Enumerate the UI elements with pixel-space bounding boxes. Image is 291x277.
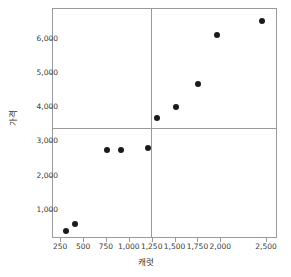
- x-axis-tick-mark: [152, 238, 153, 242]
- x-axis-tick-mark: [220, 238, 221, 242]
- x-axis-tick-label: 1,000: [118, 242, 139, 251]
- y-axis-tick-mark: [47, 141, 52, 142]
- x-axis-tick-label: 1,250: [141, 242, 162, 251]
- x-axis-tick-mark: [197, 238, 198, 242]
- x-axis-tick-label: 2,000: [210, 242, 231, 251]
- y-axis-tick-mark: [47, 176, 52, 177]
- y-axis-tick-mark: [47, 210, 52, 211]
- y-axis-title: 가격: [6, 98, 18, 138]
- data-point: [195, 81, 201, 87]
- x-axis-tick-label: 2,500: [255, 242, 276, 251]
- data-point: [173, 104, 179, 110]
- x-axis-tick-label: 250: [53, 242, 67, 251]
- x-axis-tick-mark: [106, 238, 107, 242]
- scatter-chart: 1,0002,0003,0004,0005,0006,000 250500750…: [0, 0, 291, 277]
- data-point: [154, 115, 160, 121]
- data-point: [104, 147, 110, 153]
- plot-area: [52, 8, 277, 238]
- x-axis-tick-mark: [266, 238, 267, 242]
- y-axis-tick-mark: [47, 107, 52, 108]
- y-axis-tick-mark: [47, 73, 52, 74]
- data-point: [63, 228, 69, 234]
- data-point: [214, 32, 220, 38]
- data-point: [72, 221, 78, 227]
- vertical-reference-line: [151, 9, 152, 237]
- x-axis-tick-mark: [60, 238, 61, 242]
- x-axis-tick-label: 1,500: [164, 242, 185, 251]
- data-point: [259, 18, 265, 24]
- x-axis-tick-label: 500: [76, 242, 90, 251]
- x-axis-tick-mark: [175, 238, 176, 242]
- x-axis-tick-label: 1,750: [187, 242, 208, 251]
- x-axis-tick-label: 750: [99, 242, 113, 251]
- horizontal-reference-line: [53, 128, 276, 129]
- data-point: [118, 147, 124, 153]
- x-axis-title: 캐럿: [0, 255, 291, 267]
- x-axis-tick-mark: [83, 238, 84, 242]
- x-axis-tick-mark: [129, 238, 130, 242]
- y-axis-tick-mark: [47, 39, 52, 40]
